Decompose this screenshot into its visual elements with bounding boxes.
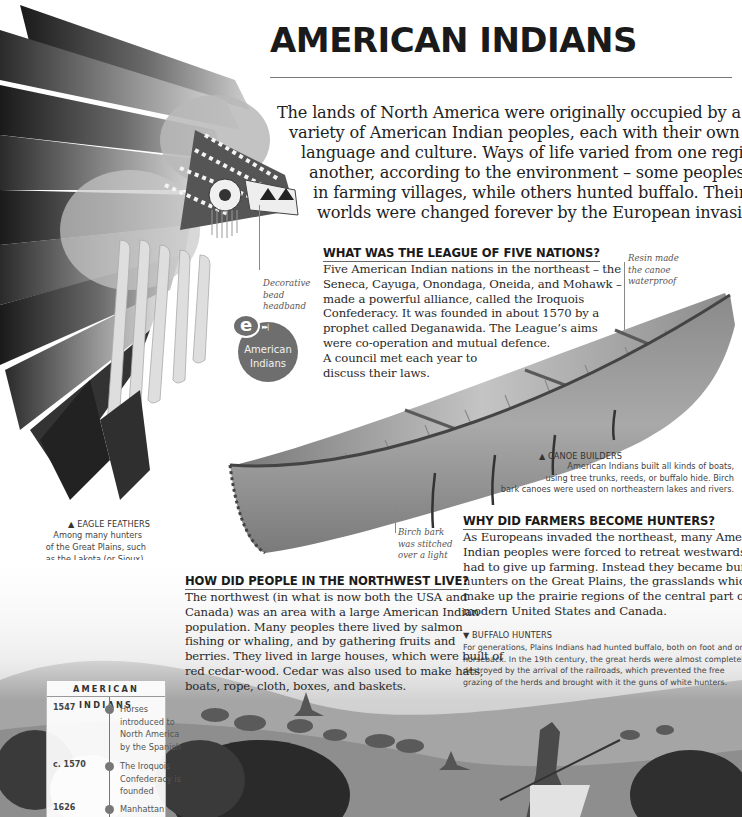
timeline-date: 1547 xyxy=(53,703,75,712)
timeline-dot-icon xyxy=(105,762,114,771)
title-divider xyxy=(270,77,732,78)
intro-line: another, according to the environment – … xyxy=(309,163,742,182)
up-triangle-icon: ▲ xyxy=(68,519,74,529)
intro-line: The lands of North America were original… xyxy=(277,103,742,122)
resin-caption: Resin made the canoe waterproof xyxy=(628,253,679,288)
buffalo-hunters-caption: ▼ BUFFALO HUNTERS For generations, Plain… xyxy=(463,630,742,688)
intro-line: worlds were changed forever by the Europ… xyxy=(317,203,742,222)
league-heading: WHAT WAS THE LEAGUE OF FIVE NATIONS? xyxy=(323,246,600,262)
timeline-axis xyxy=(109,697,110,817)
farmers-body: As Europeans invaded the northeast, many… xyxy=(463,530,742,619)
farmers-heading: WHY DID FARMERS BECOME HUNTERS? xyxy=(463,514,715,530)
timeline-date: c. 1570 xyxy=(53,760,86,769)
page-title: AMERICAN INDIANS xyxy=(270,20,637,60)
canoe-builders-caption: ▲ CANOE BUILDERS American Indians built … xyxy=(442,451,734,496)
timeline-event-text: Horses introduced to North America by th… xyxy=(120,703,181,753)
up-triangle-icon: ▲ xyxy=(539,451,545,461)
timeline-dot-icon xyxy=(105,805,114,814)
intro-line: language and culture. Ways of life varie… xyxy=(301,143,742,162)
timeline-event-text: The Iroquois Confederacy is founded xyxy=(120,760,181,798)
intro-line: in farming villages, while others hunted… xyxy=(313,183,742,202)
northwest-heading: HOW DID PEOPLE IN THE NORTHWEST LIVE? xyxy=(185,574,469,590)
timeline-dot-icon xyxy=(105,705,114,714)
intro-line: variety of American Indian peoples, each… xyxy=(289,123,739,142)
timeline-event-text: Manhattan Island is sold to xyxy=(120,803,184,817)
headband-leader-line xyxy=(259,205,260,270)
timeline-date: 1626 xyxy=(53,803,75,812)
birch-bark-leader-line xyxy=(395,505,396,533)
timeline-title: AMERICAN INDIANS xyxy=(47,681,165,697)
northwest-body: The northwest (in what is now both the U… xyxy=(185,590,503,694)
timeline-box: AMERICAN INDIANS 1547 Horses introduced … xyxy=(46,680,166,817)
